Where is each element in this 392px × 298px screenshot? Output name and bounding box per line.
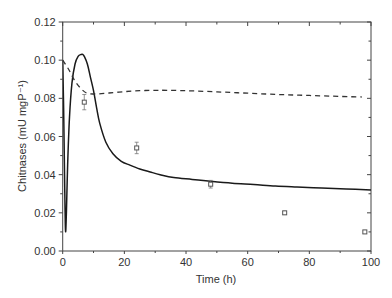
plot-frame bbox=[63, 22, 371, 251]
y-axis-title: Chitnases (mU mgP⁻¹) bbox=[16, 80, 28, 192]
x-tick-label: 60 bbox=[242, 256, 254, 268]
data-point bbox=[82, 95, 86, 110]
axes-frame bbox=[63, 22, 371, 251]
square-marker bbox=[209, 182, 213, 186]
y-tick-label: 0.12 bbox=[34, 16, 55, 28]
x-tick-label: 0 bbox=[60, 256, 66, 268]
x-tick-label: 20 bbox=[118, 256, 130, 268]
plot-series bbox=[63, 54, 371, 234]
solid-model-curve bbox=[63, 54, 371, 232]
y-tick-label: 0.04 bbox=[34, 169, 55, 181]
square-marker bbox=[283, 211, 287, 215]
data-point bbox=[283, 211, 287, 215]
y-tick-label: 0.02 bbox=[34, 207, 55, 219]
x-tick-label: 40 bbox=[180, 256, 192, 268]
square-marker bbox=[82, 100, 86, 104]
y-tick-labels: 0.000.020.040.060.080.100.12 bbox=[34, 16, 55, 257]
square-marker bbox=[363, 230, 367, 234]
x-tick-label: 100 bbox=[362, 256, 380, 268]
y-tick-label: 0.06 bbox=[34, 131, 55, 143]
square-marker bbox=[135, 146, 139, 150]
data-point bbox=[363, 230, 367, 234]
data-point bbox=[135, 142, 139, 153]
x-tick-label: 80 bbox=[303, 256, 315, 268]
y-tick-label: 0.00 bbox=[34, 245, 55, 257]
x-axis-title: Time (h) bbox=[196, 273, 237, 285]
y-tick-label: 0.08 bbox=[34, 92, 55, 104]
y-tick-label: 0.10 bbox=[34, 54, 55, 66]
axis-ticks bbox=[59, 22, 371, 254]
chart: 020406080100 0.000.020.040.060.080.100.1… bbox=[0, 0, 392, 298]
dashed-model-curve bbox=[63, 60, 362, 97]
x-tick-labels: 020406080100 bbox=[60, 256, 381, 268]
